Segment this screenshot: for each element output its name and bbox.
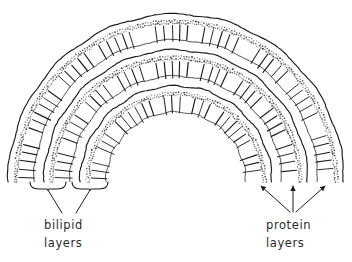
- band-outer-stipple-dot: [194, 24, 195, 25]
- band-middle-stipple-dot: [293, 149, 295, 151]
- band-middle-stipple-dot: [205, 62, 207, 64]
- band-outer-stipple-dot: [84, 48, 86, 50]
- band-middle-lipid-tail: [279, 161, 294, 164]
- band-middle-stipple-dot: [103, 79, 105, 81]
- band-outer-stipple-dot: [16, 155, 17, 156]
- band-middle-stipple-dot: [85, 99, 86, 100]
- band-outer-lipid-tail: [251, 50, 260, 64]
- band-outer-stipple-dot: [332, 162, 333, 163]
- band-middle-stipple-dot: [64, 122, 66, 124]
- band-middle-stipple-dot: [236, 74, 237, 75]
- band-outer-stipple-dot: [65, 67, 66, 68]
- band-middle-stipple-dot: [53, 159, 55, 161]
- band-middle-stipple-dot: [105, 77, 107, 79]
- band-inner-stipple-dot: [227, 107, 229, 109]
- band-outer-stipple-dot: [219, 26, 220, 27]
- band-outer-stipple-dot: [20, 137, 22, 139]
- band-outer-stipple-dot: [299, 76, 300, 77]
- band-outer-stipple-dot: [316, 109, 317, 110]
- band-outer-stipple-dot: [302, 87, 303, 88]
- band-inner-lipid-tail: [240, 155, 257, 161]
- band-outer-stipple-dot: [185, 20, 186, 21]
- band-middle-stipple-dot: [106, 80, 108, 82]
- band-outer-lipid-tail: [300, 105, 313, 112]
- band-inner-stipple-dot: [86, 173, 88, 175]
- band-middle-stipple-dot: [299, 168, 300, 169]
- band-middle-stipple-dot: [57, 139, 59, 141]
- band-middle-stipple-dot: [229, 68, 230, 69]
- band-middle-stipple-dot: [107, 76, 108, 77]
- band-outer-stipple-dot: [235, 33, 237, 35]
- band-inner-stipple-dot: [129, 104, 131, 106]
- band-inner-stipple-dot: [251, 138, 253, 140]
- band-middle-stipple-dot: [252, 84, 253, 85]
- band-middle-stipple-dot: [225, 65, 227, 67]
- band-inner-stipple-dot: [178, 94, 179, 95]
- band-inner-stipple-dot: [170, 92, 171, 93]
- band-middle-stipple-dot: [99, 85, 101, 87]
- band-outer-stipple-dot: [135, 25, 136, 26]
- band-outer-stipple-dot: [32, 112, 33, 113]
- band-inner-stipple-dot: [264, 173, 265, 174]
- band-outer-stipple-dot: [313, 101, 315, 103]
- band-inner-stipple-dot: [95, 147, 97, 149]
- band-outer-stipple-dot: [25, 131, 26, 132]
- band-outer-stipple-dot: [107, 34, 108, 35]
- band-inner-stipple-dot: [151, 94, 152, 95]
- band-inner-stipple-dot: [88, 181, 90, 183]
- band-outer-stipple-dot: [27, 124, 29, 126]
- band-middle-stipple-dot: [162, 56, 164, 58]
- band-outer-stipple-dot: [256, 41, 257, 42]
- band-inner-stipple-dot: [248, 134, 250, 136]
- band-middle-stipple-dot: [130, 66, 132, 68]
- band-inner-stipple-dot: [207, 98, 208, 99]
- band-middle-stipple-dot: [290, 129, 292, 131]
- band-outer-stipple-line: [14, 19, 339, 183]
- band-inner-stipple-dot: [118, 113, 119, 114]
- band-inner-stipple-dot: [109, 126, 110, 127]
- band-outer-stipple-dot: [327, 127, 329, 129]
- band-outer-stipple-dot: [332, 153, 334, 155]
- band-outer-lipid-tail: [155, 27, 157, 43]
- band-middle-stipple-dot: [297, 149, 299, 151]
- band-outer-stipple-dot: [174, 19, 176, 21]
- band-outer-stipple-dot: [278, 56, 279, 57]
- band-middle-stipple-dot: [215, 65, 217, 67]
- band-inner-lipid-tail: [204, 105, 210, 118]
- band-inner-stipple-dot: [139, 102, 141, 104]
- band-inner-stipple-dot: [260, 152, 261, 153]
- band-middle-stipple-dot: [70, 117, 72, 119]
- band-outer-stipple-dot: [243, 35, 245, 37]
- band-outer-stipple-dot: [324, 119, 326, 121]
- band-outer-stipple-dot: [265, 51, 267, 53]
- band-inner-stipple-dot: [261, 164, 262, 165]
- band-outer-stipple-dot: [34, 102, 35, 103]
- band-middle-stipple-dot: [141, 60, 142, 61]
- band-inner-stipple-dot: [241, 123, 243, 125]
- band-outer-stipple-dot: [89, 49, 90, 50]
- band-outer-stipple-dot: [322, 120, 323, 121]
- band-outer-stipple-dot: [106, 39, 107, 40]
- band-inner-stipple-dot: [255, 139, 257, 141]
- band-outer-stipple-dot: [334, 166, 336, 168]
- band-outer-stipple-dot: [170, 22, 171, 23]
- band-inner-stipple-dot: [188, 95, 189, 96]
- band-middle-stipple-dot: [197, 61, 199, 63]
- band-outer-stipple-dot: [264, 49, 265, 50]
- band-outer-stipple-dot: [166, 21, 168, 23]
- band-outer-stipple-dot: [292, 73, 293, 74]
- band-inner-stipple-dot: [249, 130, 250, 131]
- band-inner-stipple-dot: [261, 154, 263, 156]
- band-inner-stipple-dot: [167, 95, 168, 96]
- band-outer-stipple-dot: [324, 116, 326, 118]
- band-outer-stipple-dot: [27, 119, 28, 120]
- band-middle-stipple-dot: [141, 62, 143, 64]
- band-middle-stipple-dot: [259, 90, 260, 91]
- band-outer-stipple-dot: [44, 92, 46, 94]
- band-outer-stipple-dot: [19, 153, 21, 155]
- band-outer-stipple-dot: [279, 57, 281, 59]
- band-middle-stipple-dot: [119, 69, 120, 70]
- band-outer-stipple-dot: [71, 57, 73, 59]
- band-inner-stipple-dot: [154, 95, 155, 96]
- band-inner-stipple-dot: [230, 112, 231, 113]
